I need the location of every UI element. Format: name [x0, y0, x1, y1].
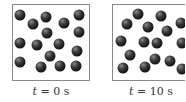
- particle: [152, 38, 163, 49]
- particle: [118, 63, 129, 74]
- particle: [15, 10, 26, 21]
- particle: [177, 64, 186, 75]
- particle: [74, 10, 85, 21]
- particle: [59, 18, 70, 29]
- particle: [116, 36, 127, 47]
- particle: [15, 57, 26, 68]
- particle: [71, 61, 82, 72]
- particle: [125, 50, 136, 61]
- particle: [41, 12, 52, 23]
- particle: [28, 19, 39, 30]
- particle: [45, 51, 56, 62]
- particle: [140, 62, 151, 73]
- particle: [139, 37, 150, 48]
- particle: [177, 38, 186, 49]
- caption-t10: t = 10 s: [129, 85, 173, 98]
- caption-value: = 10 s: [134, 85, 173, 98]
- particle: [36, 62, 47, 73]
- particle: [156, 11, 167, 22]
- particle: [165, 56, 176, 67]
- particle: [150, 54, 161, 65]
- particle: [15, 38, 26, 49]
- particle: [133, 9, 144, 20]
- particle: [122, 19, 133, 30]
- particle: [42, 28, 53, 39]
- particle: [55, 61, 66, 72]
- caption-value: = 0 s: [37, 85, 69, 98]
- particle: [72, 46, 83, 57]
- particle: [32, 40, 43, 51]
- particle: [54, 39, 65, 50]
- particle: [162, 26, 173, 37]
- particle: [74, 27, 85, 38]
- particle: [176, 18, 186, 29]
- particle: [143, 22, 154, 33]
- caption-t0: t = 0 s: [33, 85, 70, 98]
